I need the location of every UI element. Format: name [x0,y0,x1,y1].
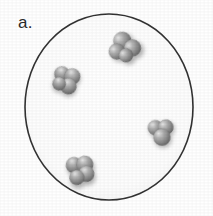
panel-label: a. [18,13,33,33]
vessel-outline [25,14,193,200]
figure-panel: a. [0,0,213,216]
